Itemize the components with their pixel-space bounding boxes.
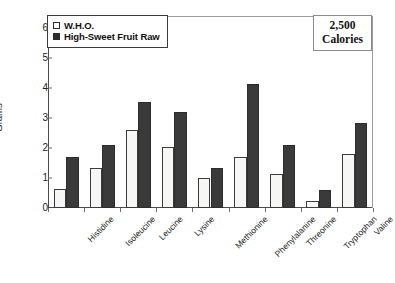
y-axis-title: Grams — [0, 103, 4, 132]
y-tick-mark — [48, 58, 52, 59]
bar — [198, 178, 210, 208]
bar — [342, 154, 354, 208]
legend-label-who: W.H.O. — [64, 21, 94, 31]
y-tick-label: 6 — [34, 23, 48, 33]
x-tick-label: Isoleucine — [123, 214, 157, 248]
y-tick-mark — [48, 118, 52, 119]
y-tick-label: 0 — [34, 203, 48, 213]
bar — [102, 145, 114, 208]
y-tick-label: 2 — [34, 143, 48, 153]
x-tick-label: Leucine — [157, 214, 185, 242]
bar — [270, 174, 282, 209]
x-tick-label: Lysine — [192, 214, 216, 238]
x-tick-label: Histidine — [86, 214, 116, 244]
bar — [90, 168, 102, 209]
x-tick-mark — [156, 208, 157, 212]
bar — [66, 157, 78, 208]
bar — [283, 145, 295, 208]
x-tick-mark — [84, 208, 85, 212]
x-tick-mark — [120, 208, 121, 212]
x-tick-mark — [337, 208, 338, 212]
y-tick-mark — [48, 178, 52, 179]
calories-annotation-box: 2,500 Calories — [313, 15, 372, 51]
x-tick-mark — [265, 208, 266, 212]
y-tick-label: 1 — [34, 173, 48, 183]
bar — [162, 147, 174, 209]
x-tick-mark — [301, 208, 302, 212]
y-tick-mark — [48, 88, 52, 89]
x-tick-mark — [48, 208, 49, 212]
plot-right-border — [372, 16, 373, 208]
legend-item-who: W.H.O. — [53, 21, 160, 31]
y-axis: 0123456 — [22, 0, 48, 283]
open-square-swatch-icon — [53, 22, 60, 29]
bar — [174, 112, 186, 208]
y-tick-mark — [48, 148, 52, 149]
bar — [54, 189, 66, 209]
calories-value: 2,500 — [322, 19, 363, 33]
x-tick-mark — [373, 208, 374, 212]
filled-square-swatch-icon — [53, 33, 60, 40]
x-tick-mark — [192, 208, 193, 212]
y-tick-label: 4 — [34, 83, 48, 93]
x-tick-mark — [229, 208, 230, 212]
bar — [126, 130, 138, 208]
legend: W.H.O. High-Sweet Fruit Raw — [47, 15, 168, 48]
legend-label-fruit: High-Sweet Fruit Raw — [64, 32, 160, 42]
bar — [211, 168, 223, 209]
bar — [306, 201, 318, 209]
bar — [319, 190, 331, 208]
bar — [355, 123, 367, 209]
bar — [247, 84, 259, 209]
y-tick-label: 3 — [34, 113, 48, 123]
y-tick-label: 5 — [34, 53, 48, 63]
legend-item-fruit: High-Sweet Fruit Raw — [53, 32, 160, 42]
calories-unit: Calories — [322, 33, 363, 47]
bar — [138, 102, 150, 209]
bar — [234, 157, 246, 208]
x-tick-label: Methionine — [233, 214, 269, 250]
x-tick-label: Tryptophan — [341, 214, 378, 251]
